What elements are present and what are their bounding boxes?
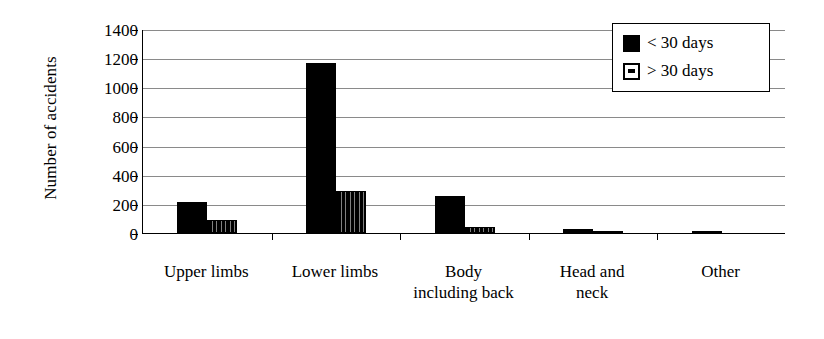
legend-swatch-lt30days-icon	[623, 35, 640, 52]
x-axis-tick-mark	[657, 233, 658, 240]
bar-lt30days	[306, 63, 336, 233]
x-axis-tick-mark	[272, 233, 273, 240]
x-axis-label-line: Upper limbs	[142, 261, 271, 282]
bar-gt30days	[336, 191, 366, 233]
bar-gt30days	[465, 227, 495, 233]
accidents-bar-chart: Number of accidents 14001200100080060040…	[0, 0, 824, 339]
y-axis-tick-mark	[132, 88, 138, 89]
bar-gt30days	[593, 231, 623, 234]
legend: < 30 days> 30 days	[612, 23, 770, 92]
bar-gt30days	[207, 220, 237, 233]
legend-label: > 30 days	[647, 61, 713, 81]
legend-swatch-gt30days-icon	[623, 63, 640, 80]
y-axis-tick-mark	[132, 59, 138, 60]
x-axis-category-label: Bodyincluding back	[399, 261, 528, 303]
y-axis-tick-label: 600	[80, 138, 138, 155]
y-axis-tick-label: 800	[80, 109, 138, 126]
y-axis-tick-label: 400	[80, 167, 138, 184]
y-axis-tick-label: 200	[80, 196, 138, 213]
x-axis-label-line: Head and	[528, 261, 657, 282]
x-axis-label-line: neck	[528, 282, 657, 303]
x-axis-label-line: Lower limbs	[271, 261, 400, 282]
bar-lt30days	[692, 231, 722, 234]
y-axis-tick-label: 1400	[80, 22, 138, 39]
y-axis-tick-labels: 1400120010008006004002000	[78, 30, 138, 234]
y-axis-tick-mark	[132, 147, 138, 148]
bar-lt30days	[435, 196, 465, 233]
y-axis-tick-mark	[132, 205, 138, 206]
x-axis-category-label: Head andneck	[528, 261, 657, 303]
y-axis-tick-mark	[132, 30, 138, 31]
x-axis-label-line: including back	[399, 282, 528, 303]
x-axis-tick-mark	[529, 233, 530, 240]
y-axis-tick-mark	[132, 234, 138, 235]
legend-label: < 30 days	[647, 33, 713, 53]
bar-lt30days	[563, 229, 593, 233]
y-axis-title: Number of accidents	[41, 13, 61, 243]
x-axis-label-line: Body	[399, 261, 528, 282]
y-axis-tick-mark	[132, 176, 138, 177]
bar-lt30days	[177, 202, 207, 233]
y-axis-tick-label: 1000	[80, 80, 138, 97]
x-axis-category-label: Other	[656, 261, 785, 282]
x-axis-category-label: Lower limbs	[271, 261, 400, 282]
x-axis-tick-mark	[400, 233, 401, 240]
x-axis-category-labels: Upper limbsLower limbsBodyincluding back…	[142, 243, 785, 313]
legend-item: < 30 days	[613, 29, 769, 57]
legend-item: > 30 days	[613, 57, 769, 85]
x-axis-category-label: Upper limbs	[142, 261, 271, 282]
y-axis-tick-mark	[132, 117, 138, 118]
y-axis-tick-label: 0	[80, 226, 138, 243]
x-axis-label-line: Other	[656, 261, 785, 282]
y-axis-tick-label: 1200	[80, 51, 138, 68]
